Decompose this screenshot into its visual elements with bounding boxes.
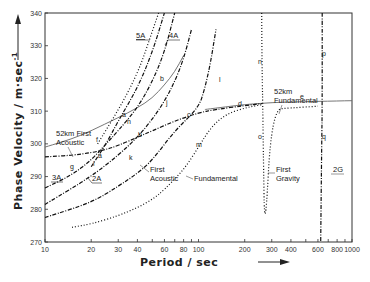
x-tick-label: 200: [239, 246, 251, 253]
curve-letter-h: h: [127, 118, 131, 125]
x-tick-label: 10: [41, 246, 49, 253]
curve-letter-c: c: [187, 111, 191, 118]
x-tick-label: 30: [114, 246, 122, 253]
curve-3a-g-h-: [45, 13, 175, 188]
label-52km-fundamental-line2: Fundamental: [274, 96, 318, 105]
label-2G: 2G: [333, 165, 343, 174]
y-tick-label: 320: [30, 75, 42, 82]
x-tick-label: 100: [193, 246, 205, 253]
curve-first-gravity-n-o-: [262, 13, 318, 214]
label-first-gravity-line1: First: [276, 165, 291, 174]
y-tick-label: 300: [30, 140, 42, 147]
curve-letter-k: k: [129, 154, 133, 161]
label-52km-fundamental-line1: 52km: [274, 87, 292, 96]
curve-letter-i: i: [93, 160, 95, 167]
curve-letter-f: f: [96, 136, 98, 143]
curve-letter-l: l: [219, 76, 221, 83]
label-3A: 3A: [52, 173, 61, 182]
x-tick-label: 20: [87, 246, 95, 253]
svg-text:Phase Velocity / m·sec-1: Phase Velocity / m·sec-1: [11, 52, 25, 210]
plot-frame: [45, 13, 352, 242]
x-tick-label: 600: [312, 246, 324, 253]
curve-letter-g: g: [70, 163, 74, 171]
curve-letter-e: e: [300, 93, 304, 100]
label-2A: 2A: [92, 174, 101, 183]
y-tick-label: 280: [30, 206, 42, 213]
curve-letter-b2: b: [138, 131, 142, 138]
x-tick-label: 1000: [344, 246, 360, 253]
curve-letter-d: d: [238, 100, 242, 107]
curve-letter-m: m: [196, 141, 202, 148]
label-first-acoustic-line2: Acoustic: [150, 174, 179, 183]
label-first-acoustic-line1: First: [150, 165, 165, 174]
phase-velocity-chart: 270280290300310320330340 102030406080100…: [0, 0, 370, 282]
x-axis-arrow-icon: [258, 259, 290, 265]
curve-letter-q: q: [322, 133, 326, 141]
curve-letter-a: a: [122, 111, 126, 118]
curve-letter-j: j: [165, 99, 168, 107]
label-4A: 4A: [169, 31, 178, 40]
label-52km-first-acoustic-line2: Acoustic: [56, 138, 85, 147]
label-fundamental: Fundamental: [194, 174, 238, 183]
curve-2g-p-q-: [321, 13, 323, 242]
curve-letter-o: o: [258, 133, 262, 140]
curves: [45, 13, 352, 242]
label-5A: 5A: [136, 31, 145, 40]
curve-letter-n: n: [258, 58, 262, 65]
y-tick-label: 270: [30, 239, 42, 246]
y-tick-label: 290: [30, 173, 42, 180]
x-tick-label: 80: [180, 246, 188, 253]
y-axis-title: Phase Velocity / m·sec-1: [11, 52, 25, 210]
x-tick-label: 40: [134, 246, 142, 253]
y-tick-label: 340: [30, 10, 42, 17]
curve-letter-a2: a: [98, 152, 102, 159]
x-axis-title: Period / sec: [140, 256, 218, 269]
curve-letter-p: p: [322, 50, 326, 58]
y-tick-label: 310: [30, 108, 42, 115]
x-tick-label: 800: [331, 246, 343, 253]
curve-4a-f-: [91, 13, 164, 167]
x-tick-label: 60: [161, 246, 169, 253]
label-52km-first-acoustic-line1: 52km First: [56, 129, 92, 138]
label-first-gravity-line2: Gravity: [276, 174, 300, 183]
curve-fundamental-lower-branch-m-: [72, 105, 262, 228]
y-tick-label: 330: [30, 42, 42, 49]
x-tick-label: 400: [285, 246, 297, 253]
x-tick-label: 300: [266, 246, 278, 253]
x-axis-ticks: 1020304060801002003004006008001000: [41, 239, 360, 253]
curve-letter-b: b: [160, 75, 164, 82]
